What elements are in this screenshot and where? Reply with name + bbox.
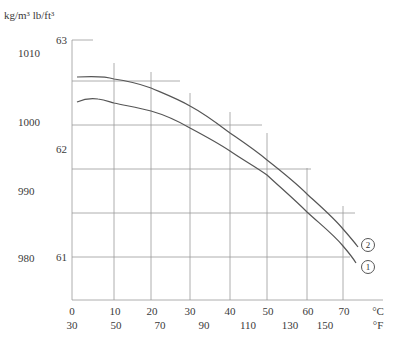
xtick-c-50: 50 (263, 306, 274, 317)
curve-2 (77, 77, 358, 247)
xtick-c-0: 0 (69, 306, 75, 317)
ytick-980: 980 (18, 253, 35, 264)
ytick-1000: 1000 (18, 117, 40, 128)
xtick-f-50: 50 (111, 320, 122, 331)
xtick-f-70: 70 (155, 320, 166, 331)
curve-1-label: 1 (361, 260, 375, 274)
ytick-62: 62 (56, 144, 67, 155)
ytick-61: 61 (56, 252, 67, 263)
xtick-c-20: 20 (147, 306, 158, 317)
xtick-c-70: 70 (339, 306, 350, 317)
xtick-c-30: 30 (185, 306, 196, 317)
xtick-f-150: 150 (317, 320, 334, 331)
curves (77, 77, 358, 263)
ytick-63: 63 (56, 35, 67, 46)
curve-2-label: 2 (361, 238, 375, 252)
xtick-c-40: 40 (225, 306, 236, 317)
xtick-f-110: 110 (240, 320, 256, 331)
xtick-c-60: 60 (303, 306, 314, 317)
y-unit-labels: kg/m³ lb/ft³ (4, 10, 54, 21)
grid (72, 40, 383, 300)
xtick-f-130: 130 (282, 320, 299, 331)
x-unit-celsius: °C (372, 306, 384, 317)
density-chart (0, 0, 400, 351)
ytick-990: 990 (18, 186, 35, 197)
unit-kgm3: kg/m³ (4, 9, 30, 21)
unit-lbft3: lb/ft³ (33, 9, 55, 21)
xtick-f-30: 30 (67, 320, 78, 331)
xtick-f-90: 90 (199, 320, 210, 331)
x-unit-fahrenheit: °F (373, 320, 384, 331)
ytick-1010: 1010 (18, 48, 40, 59)
xtick-c-10: 10 (110, 306, 121, 317)
